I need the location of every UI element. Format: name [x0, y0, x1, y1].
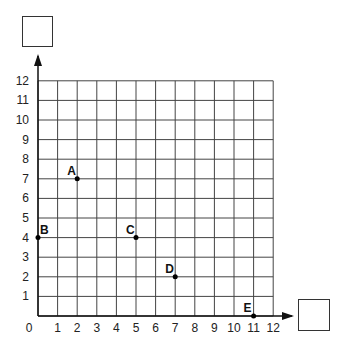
x-tick-label: 4: [113, 321, 120, 335]
x-tick-label: 8: [191, 321, 198, 335]
svg-text:C: C: [126, 223, 135, 237]
y-axis-label-box[interactable]: [22, 16, 53, 47]
x-tick-label: 6: [152, 321, 159, 335]
x-tick-label: 0: [26, 321, 33, 335]
x-tick-label: 10: [227, 321, 241, 335]
x-tick-label: 5: [133, 321, 140, 335]
x-axis-label-box[interactable]: [298, 299, 330, 331]
y-tick-label: 9: [22, 133, 29, 147]
coordinate-grid: 0123456789101112123456789101112ABCDE: [0, 0, 347, 347]
y-tick-label: 11: [17, 93, 30, 107]
x-tick-label: 1: [54, 321, 61, 335]
x-tick-label: 2: [74, 321, 81, 335]
y-tick-label: 1: [22, 289, 29, 303]
grid-lines: [38, 81, 273, 316]
svg-text:D: D: [165, 262, 174, 276]
y-axis-arrow-icon: [34, 54, 42, 66]
svg-text:E: E: [244, 301, 252, 315]
svg-text:B: B: [40, 223, 49, 237]
y-tick-label: 7: [22, 172, 29, 186]
x-axis-arrow-icon: [282, 312, 294, 320]
y-tick-label: 2: [22, 270, 29, 284]
x-tick-label: 12: [267, 321, 281, 335]
y-tick-label: 4: [22, 231, 29, 245]
y-tick-label: 5: [22, 211, 29, 225]
y-tick-label: 6: [22, 191, 29, 205]
x-tick-label: 3: [93, 321, 100, 335]
y-tick-label: 3: [22, 250, 29, 264]
y-tick-label: 8: [22, 152, 29, 166]
svg-text:A: A: [67, 164, 76, 178]
x-tick-label: 9: [211, 321, 218, 335]
y-tick-label: 10: [16, 113, 30, 127]
x-tick-label: 7: [172, 321, 179, 335]
y-tick-label: 12: [16, 74, 30, 88]
x-tick-label: 11: [247, 321, 260, 335]
